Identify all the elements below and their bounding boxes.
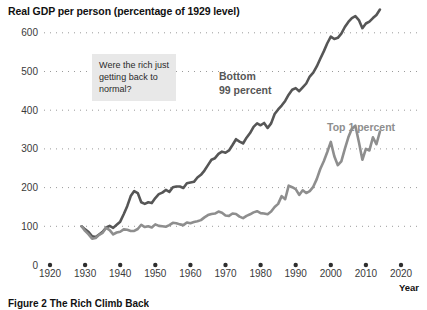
x-tick-dot [223, 263, 227, 267]
x-tick-dot [329, 263, 333, 267]
x-tick-dot [258, 263, 262, 267]
x-tick-dot [48, 263, 52, 267]
chart-plot: 0100200300400500600 19201930194019501960… [0, 0, 427, 310]
y-tick-label: 100 [21, 221, 38, 232]
figure-container: Real GDP per person (percentage of 1929 … [0, 0, 427, 310]
x-tick-label: 1960 [179, 268, 202, 279]
bottom-99-label-line2: 99 percent [219, 84, 272, 96]
x-tick-dot [364, 263, 368, 267]
x-tick-dot [294, 263, 298, 267]
y-tick-label: 600 [21, 27, 38, 38]
y-tick-labels-group: 0100200300400500600 [21, 27, 38, 270]
y-tick-label: 300 [21, 143, 38, 154]
y-tick-label: 500 [21, 66, 38, 77]
x-tick-label: 2020 [390, 268, 413, 279]
series-line-top-1 [82, 126, 380, 239]
x-tick-label: 1980 [249, 268, 272, 279]
figure-caption: Figure 2 The Rich Climb Back [8, 298, 149, 310]
x-tick-label: 1920 [39, 268, 62, 279]
x-tick-label: 1970 [214, 268, 237, 279]
x-tick-dot [83, 263, 87, 267]
y-tick-label: 200 [21, 182, 38, 193]
x-tick-label: 1940 [109, 268, 132, 279]
x-tick-label: 2010 [355, 268, 378, 279]
bottom-99-label-line1: Bottom [219, 70, 256, 82]
x-tick-label: 1950 [144, 268, 167, 279]
x-tick-dot [188, 263, 192, 267]
x-tick-dot [399, 263, 403, 267]
x-axis-title: Year [399, 282, 419, 293]
top-1-label: Top 1 percent [327, 121, 396, 133]
callout-note: Were the rich just getting back to norma… [92, 54, 176, 101]
x-tick-labels-group: 1920193019401950196019701980199020002010… [39, 268, 413, 279]
x-tick-label: 1930 [74, 268, 97, 279]
x-tick-dot [153, 263, 157, 267]
x-tick-dots-group [48, 263, 403, 267]
x-tick-label: 2000 [320, 268, 343, 279]
y-tick-label: 400 [21, 105, 38, 116]
y-tick-label: 0 [32, 260, 38, 271]
x-tick-dot [118, 263, 122, 267]
x-tick-label: 1990 [285, 268, 308, 279]
